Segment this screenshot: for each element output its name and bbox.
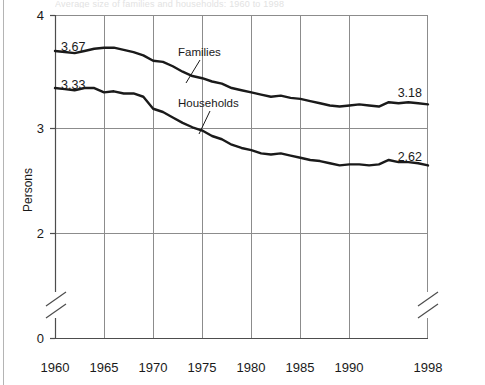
- ytick-label-2: 2: [37, 226, 44, 241]
- line-chart-plot: 4 3 2 0 Persons 1960 1965 1970 1975 1980…: [0, 0, 485, 385]
- y-axis-break-left: [46, 292, 66, 318]
- xtick-label-1975: 1975: [188, 360, 217, 375]
- xtick-label-1970: 1970: [139, 360, 168, 375]
- ytick-label-0: 0: [37, 331, 44, 346]
- ytick-label-4: 4: [37, 8, 44, 23]
- xtick-label-1990: 1990: [335, 360, 364, 375]
- vertical-gridlines: [56, 15, 428, 338]
- annotation-households: Households: [178, 97, 239, 109]
- xtick-label-1980: 1980: [237, 360, 266, 375]
- xtick-label-1960: 1960: [41, 360, 70, 375]
- annotation-families: Families: [178, 46, 221, 58]
- households-line: [55, 88, 428, 165]
- households-end-value-label: 2.62: [398, 150, 422, 164]
- families-line: [55, 48, 428, 107]
- households-start-value-label: 3.33: [61, 78, 85, 92]
- axis-lines: [55, 15, 428, 339]
- ytick-label-3: 3: [37, 121, 44, 136]
- xtick-label-1998: 1998: [414, 360, 443, 375]
- chart-figure: Average size of families and households:…: [0, 0, 485, 385]
- xtick-label-1965: 1965: [90, 360, 119, 375]
- xtick-label-1985: 1985: [286, 360, 315, 375]
- families-end-value-label: 3.18: [398, 86, 422, 100]
- y-axis-break-right: [418, 292, 438, 318]
- families-start-value-label: 3.67: [61, 40, 85, 54]
- y-tick-marks: [50, 16, 55, 339]
- families-leader-line: [186, 60, 200, 83]
- y-axis-title: Persons: [21, 168, 35, 212]
